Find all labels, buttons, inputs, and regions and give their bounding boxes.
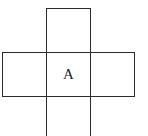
net-square-top (46, 8, 91, 53)
square-label-bottom (47, 97, 90, 136)
square-label-top (47, 9, 90, 52)
net-square-left (2, 52, 47, 97)
square-label-left (3, 53, 46, 96)
square-label-center: A (47, 53, 90, 96)
net-square-right (90, 52, 135, 97)
net-square-center: A (46, 52, 91, 97)
net-square-bottom (46, 96, 91, 136)
square-label-right (91, 53, 134, 96)
